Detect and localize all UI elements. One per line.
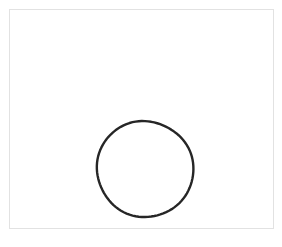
figure-canvas (0, 0, 282, 247)
drawing-frame-border (9, 9, 274, 229)
